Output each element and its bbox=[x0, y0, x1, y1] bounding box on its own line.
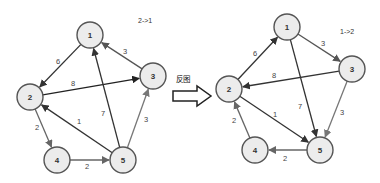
original-graph: 2->16837122312345 bbox=[17, 17, 166, 173]
edge-weight: 8 bbox=[272, 71, 276, 80]
node-label: 3 bbox=[151, 72, 156, 81]
edge-weight: 2 bbox=[232, 116, 236, 125]
edge-5-to-1: 7 bbox=[94, 49, 120, 148]
edge-weight: 1 bbox=[273, 110, 277, 119]
node-label: 5 bbox=[318, 146, 323, 155]
edge-weight: 2 bbox=[85, 162, 89, 171]
edge-weight: 2 bbox=[283, 154, 287, 163]
node-1: 1 bbox=[274, 14, 300, 40]
edge-5-to-4: 2 bbox=[269, 150, 307, 163]
edge-arrow bbox=[290, 40, 316, 137]
edge-arrow bbox=[43, 78, 139, 94]
edge-weight: 2 bbox=[35, 123, 39, 132]
edge-arrow bbox=[102, 43, 142, 69]
edge-3-to-1: 3 bbox=[102, 43, 142, 69]
edge-4-to-2: 2 bbox=[232, 102, 250, 138]
node-1: 1 bbox=[77, 22, 103, 48]
edge-weight: 3 bbox=[144, 115, 148, 124]
node-label: 4 bbox=[253, 146, 258, 155]
edge-arrow bbox=[94, 49, 120, 148]
transform-arrow: 反图 bbox=[173, 74, 211, 106]
node-2: 2 bbox=[17, 84, 43, 110]
edge-arrow bbox=[243, 71, 339, 87]
edge-weight: 1 bbox=[77, 117, 81, 126]
node-label: 1 bbox=[88, 31, 93, 40]
node-5: 5 bbox=[110, 147, 136, 173]
reversed-graph: 1->26837122312345 bbox=[216, 14, 365, 163]
node-4: 4 bbox=[44, 147, 70, 173]
edge-weight: 3 bbox=[123, 47, 127, 56]
node-5: 5 bbox=[307, 137, 333, 163]
edge-1-to-5: 7 bbox=[290, 40, 316, 137]
node-2: 2 bbox=[216, 76, 242, 102]
edge-3-to-2: 8 bbox=[243, 71, 339, 87]
edge-arrow bbox=[234, 102, 249, 138]
node-label: 4 bbox=[55, 156, 60, 165]
graph-caption: 1->2 bbox=[340, 28, 354, 35]
edge-2-to-3: 8 bbox=[43, 78, 139, 94]
edge-weight: 6 bbox=[56, 57, 60, 66]
edge-3-to-5: 3 bbox=[325, 81, 347, 137]
edge-4-to-5: 2 bbox=[70, 160, 109, 171]
edge-weight: 7 bbox=[101, 109, 105, 118]
transform-label: 反图 bbox=[176, 74, 190, 84]
hollow-right-arrow-icon bbox=[173, 86, 211, 106]
node-label: 5 bbox=[121, 156, 126, 165]
edge-weight: 8 bbox=[71, 79, 75, 88]
edge-1-to-3: 3 bbox=[298, 34, 340, 61]
node-label: 2 bbox=[227, 85, 232, 94]
node-3: 3 bbox=[339, 56, 365, 82]
node-4: 4 bbox=[242, 137, 268, 163]
edge-5-to-3: 3 bbox=[127, 89, 148, 148]
edge-2-to-4: 2 bbox=[35, 109, 52, 147]
graph-caption: 2->1 bbox=[138, 17, 152, 24]
edge-weight: 6 bbox=[253, 49, 257, 58]
edge-arrow bbox=[298, 34, 340, 61]
node-label: 3 bbox=[350, 65, 355, 74]
node-3: 3 bbox=[140, 63, 166, 89]
edge-weight: 7 bbox=[298, 102, 302, 111]
node-label: 1 bbox=[285, 23, 290, 32]
edge-weight: 3 bbox=[321, 39, 325, 48]
graph-diagram: 2->16837122312345 1->26837122312345 反图 bbox=[0, 0, 380, 183]
node-label: 2 bbox=[28, 93, 33, 102]
edge-weight: 3 bbox=[340, 108, 344, 117]
